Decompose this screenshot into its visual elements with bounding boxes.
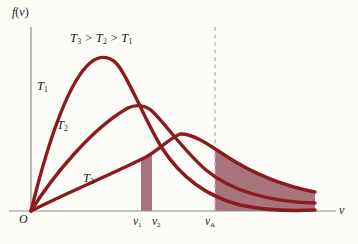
tick-label-va: vA <box>205 216 215 228</box>
tick-label-v2: v2 <box>152 216 161 228</box>
figure-container: f(v) v O T3 > T2 > T1 T1 T2 T3 v1 v2 vA <box>0 0 358 244</box>
curve-label-t3: T3 <box>83 172 94 185</box>
shaded-tail-region-t2 <box>31 105 315 211</box>
tick-label-v1: v1 <box>133 216 142 228</box>
curve-label-t1: T1 <box>37 80 48 93</box>
distribution-plot <box>0 0 358 244</box>
temperature-order-annotation: T3 > T2 > T1 <box>70 32 133 45</box>
y-axis-label: f(v) <box>12 6 29 18</box>
curve-label-t2: T2 <box>57 119 68 132</box>
origin-label: O <box>19 213 28 225</box>
x-axis-label: v <box>339 204 344 216</box>
